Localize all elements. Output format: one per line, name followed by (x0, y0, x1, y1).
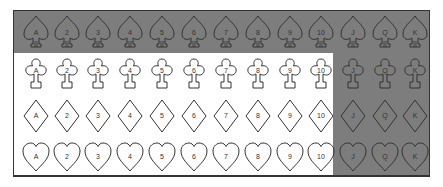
card-spades-6: 6 (179, 14, 209, 50)
card-rank-label: 8 (243, 153, 273, 161)
card-rank-label: 4 (115, 67, 145, 75)
card-clubs-9: 9 (275, 56, 305, 92)
card-rank-label: 7 (211, 29, 241, 37)
card-rank-label: J (338, 67, 368, 75)
card-hearts-5: 5 (147, 138, 177, 174)
card-diamonds-8: 8 (243, 98, 273, 134)
card-rank-label: 7 (211, 153, 241, 161)
card-diamonds-j: J (338, 98, 368, 134)
row-spades: A2345678910JQK (14, 11, 429, 53)
card-clubs-6: 6 (179, 56, 209, 92)
card-rank-label: 5 (147, 153, 177, 161)
card-spades-a: A (21, 14, 51, 50)
card-rank-label: 7 (211, 112, 241, 120)
card-rank-label: 3 (83, 112, 113, 120)
card-hearts-a: A (21, 138, 51, 174)
card-hearts-4: 4 (115, 138, 145, 174)
card-spades-7: 7 (211, 14, 241, 50)
card-rank-label: 8 (243, 67, 273, 75)
card-hearts-9: 9 (275, 138, 305, 174)
row-clubs: A2345678910JQK (14, 53, 429, 95)
card-spades-3: 3 (83, 14, 113, 50)
card-rank-label: 3 (83, 67, 113, 75)
card-rank-label: 6 (179, 112, 209, 120)
card-hearts-2: 2 (52, 138, 82, 174)
card-rank-label: A (21, 67, 51, 75)
card-diamonds-q: Q (370, 98, 400, 134)
card-hearts-k: K (400, 138, 430, 174)
card-rank-label: J (338, 153, 368, 161)
card-rank-label: 5 (147, 67, 177, 75)
card-rank-label: J (338, 112, 368, 120)
card-diamonds-10: 10 (306, 98, 336, 134)
card-clubs-q: Q (370, 56, 400, 92)
card-rank-label: 6 (179, 29, 209, 37)
card-rank-label: 2 (52, 112, 82, 120)
card-spades-2: 2 (52, 14, 82, 50)
card-spades-k: K (400, 14, 430, 50)
card-rank-label: A (21, 29, 51, 37)
card-rank-label: K (400, 112, 430, 120)
card-clubs-a: A (21, 56, 51, 92)
card-spades-j: J (338, 14, 368, 50)
card-diamonds-a: A (21, 98, 51, 134)
card-clubs-k: K (400, 56, 430, 92)
card-rank-label: J (338, 29, 368, 37)
card-rank-label: 5 (147, 112, 177, 120)
card-hearts-j: J (338, 138, 368, 174)
card-diamonds-k: K (400, 98, 430, 134)
card-rank-label: 10 (306, 112, 336, 120)
card-rank-label: 4 (115, 29, 145, 37)
card-clubs-4: 4 (115, 56, 145, 92)
card-rank-label: 9 (275, 67, 305, 75)
card-clubs-2: 2 (52, 56, 82, 92)
card-rank-label: 2 (52, 67, 82, 75)
card-hearts-8: 8 (243, 138, 273, 174)
card-rank-label: 9 (275, 112, 305, 120)
card-diamonds-2: 2 (52, 98, 82, 134)
card-spades-4: 4 (115, 14, 145, 50)
card-rank-label: 2 (52, 29, 82, 37)
card-rank-label: 6 (179, 153, 209, 161)
card-rank-label: Q (370, 67, 400, 75)
card-rank-label: K (400, 153, 430, 161)
card-rank-label: A (21, 112, 51, 120)
card-spades-5: 5 (147, 14, 177, 50)
card-rank-label: 4 (115, 112, 145, 120)
card-diamonds-6: 6 (179, 98, 209, 134)
row-hearts: A2345678910JQK (14, 135, 429, 177)
card-spades-9: 9 (275, 14, 305, 50)
card-rank-label: 7 (211, 67, 241, 75)
card-rank-label: A (21, 153, 51, 161)
card-rank-label: 4 (115, 153, 145, 161)
card-spades-10: 10 (306, 14, 336, 50)
card-rank-label: 10 (306, 29, 336, 37)
card-hearts-7: 7 (211, 138, 241, 174)
card-rank-label: 10 (306, 153, 336, 161)
card-rank-label: Q (370, 112, 400, 120)
card-rank-label: 5 (147, 29, 177, 37)
card-rank-label: Q (370, 29, 400, 37)
card-spades-8: 8 (243, 14, 273, 50)
card-hearts-10: 10 (306, 138, 336, 174)
card-spades-q: Q (370, 14, 400, 50)
card-rank-label: 8 (243, 112, 273, 120)
card-rank-label: 3 (83, 29, 113, 37)
card-rank-label: 9 (275, 29, 305, 37)
card-hearts-3: 3 (83, 138, 113, 174)
card-rank-label: K (400, 29, 430, 37)
card-clubs-10: 10 (306, 56, 336, 92)
card-diamonds-4: 4 (115, 98, 145, 134)
card-rank-label: Q (370, 153, 400, 161)
card-rank-label: 10 (306, 67, 336, 75)
card-diamonds-5: 5 (147, 98, 177, 134)
row-diamonds: A2345678910JQK (14, 95, 429, 137)
card-clubs-5: 5 (147, 56, 177, 92)
card-rank-label: 9 (275, 153, 305, 161)
card-rank-label: 3 (83, 153, 113, 161)
card-diamonds-7: 7 (211, 98, 241, 134)
card-rank-label: 2 (52, 153, 82, 161)
card-rank-label: 6 (179, 67, 209, 75)
card-rank-label: 8 (243, 29, 273, 37)
card-hearts-q: Q (370, 138, 400, 174)
